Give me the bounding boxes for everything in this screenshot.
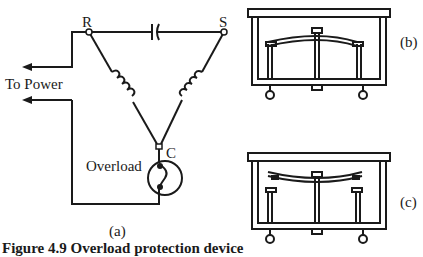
device-c <box>248 153 390 243</box>
wire-r-coil <box>89 32 112 72</box>
overload-dot-top <box>157 163 163 169</box>
wire-coil2-c <box>161 100 182 144</box>
wire-power-top <box>26 32 89 67</box>
overload-label: Overload <box>86 159 142 174</box>
arrow-left-bottom-icon <box>22 96 32 104</box>
coil-right <box>180 71 202 96</box>
overload-dot-bottom <box>157 184 163 190</box>
device-b-lid <box>248 9 390 17</box>
device-b-bimetal-top <box>268 36 357 42</box>
device-b <box>248 9 390 99</box>
device-c-lid <box>248 153 390 161</box>
figure-caption: Figure 4.9 Overload protection device <box>2 240 244 257</box>
node-s-label: S <box>219 15 227 30</box>
panel-c-label: (c) <box>400 195 417 210</box>
device-b-bimetal-bottom <box>268 40 357 46</box>
wire-s-coil <box>202 32 224 72</box>
wire-power-bottom <box>72 100 159 204</box>
arrow-left-top-icon <box>22 63 32 71</box>
panel-b-label: (b) <box>400 35 418 50</box>
power-label: To Power <box>5 77 63 92</box>
coil-left <box>112 71 134 96</box>
node-r-label: R <box>82 15 92 30</box>
node-c-label: C <box>166 146 176 161</box>
node-c <box>156 144 162 149</box>
panel-a-label: (a) <box>109 224 126 239</box>
wire-coil-c <box>133 102 157 144</box>
